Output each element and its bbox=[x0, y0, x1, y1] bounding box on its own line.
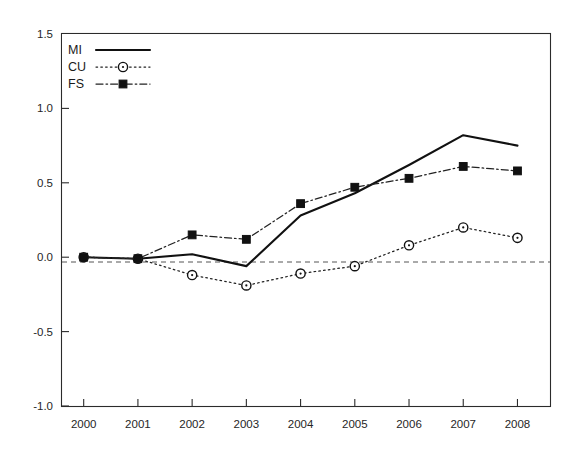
y-tick-label-1.0: 1.0 bbox=[37, 102, 53, 114]
data-point-center-cu-2008 bbox=[516, 237, 518, 239]
x-tick-label-2007: 2007 bbox=[450, 418, 476, 430]
x-tick-label-2004: 2004 bbox=[288, 418, 314, 430]
legend-label-fs: FS bbox=[68, 77, 84, 91]
x-tick-label-2008: 2008 bbox=[505, 418, 531, 430]
x-axis-ticks bbox=[84, 399, 518, 406]
legend-marker-center-cu bbox=[122, 66, 124, 68]
x-tick-label-2002: 2002 bbox=[179, 418, 205, 430]
legend-marker-fs bbox=[119, 80, 127, 88]
data-point-center-cu-2005 bbox=[354, 265, 356, 267]
data-point-center-cu-2003 bbox=[245, 284, 247, 286]
legend-label-mi: MI bbox=[68, 43, 82, 57]
line-chart: -1.0-0.50.00.51.01.5 2000200120022003200… bbox=[0, 0, 588, 450]
data-point-fs-2005 bbox=[351, 183, 359, 191]
data-point-center-cu-2002 bbox=[191, 274, 193, 276]
y-axis-tick-labels: -1.0-0.50.00.51.01.5 bbox=[33, 28, 53, 412]
y-tick-label-0.5: 0.5 bbox=[37, 177, 53, 189]
data-point-center-cu-2006 bbox=[408, 244, 410, 246]
data-point-fs-2004 bbox=[297, 200, 305, 208]
x-tick-label-2003: 2003 bbox=[234, 418, 260, 430]
data-point-fs-2000 bbox=[80, 253, 88, 261]
x-tick-label-2006: 2006 bbox=[396, 418, 422, 430]
data-point-center-cu-2004 bbox=[299, 272, 301, 274]
x-tick-label-2000: 2000 bbox=[71, 418, 97, 430]
data-point-fs-2006 bbox=[405, 174, 413, 182]
data-point-center-cu-2007 bbox=[462, 226, 464, 228]
y-tick-label--0.5: -0.5 bbox=[33, 326, 53, 338]
chart-container: -1.0-0.50.00.51.01.5 2000200120022003200… bbox=[0, 0, 588, 450]
data-point-fs-2007 bbox=[459, 163, 467, 171]
x-axis-tick-labels: 200020012002200320042005200620072008 bbox=[71, 418, 530, 430]
data-point-fs-2002 bbox=[188, 231, 196, 239]
data-point-fs-2008 bbox=[514, 167, 522, 175]
x-tick-label-2001: 2001 bbox=[125, 418, 151, 430]
data-point-fs-2003 bbox=[242, 235, 250, 243]
series-line-fs bbox=[84, 166, 518, 258]
y-tick-label-0.0: 0.0 bbox=[37, 251, 53, 263]
chart-legend: MICUFS bbox=[62, 34, 180, 91]
legend-label-cu: CU bbox=[68, 60, 86, 74]
series-layer bbox=[79, 135, 522, 290]
y-tick-label-1.5: 1.5 bbox=[37, 28, 53, 40]
data-point-fs-2001 bbox=[134, 255, 142, 263]
y-tick-label--1.0: -1.0 bbox=[33, 400, 53, 412]
x-tick-label-2005: 2005 bbox=[342, 418, 368, 430]
